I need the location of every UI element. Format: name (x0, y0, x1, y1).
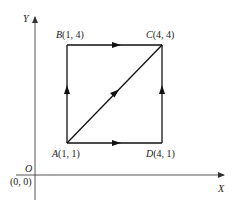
label-D: D(4, 1) (145, 148, 175, 160)
label-A: A(1, 1) (51, 148, 80, 160)
origin-label: O (25, 163, 32, 174)
label-B: B(1, 4) (56, 29, 84, 41)
arrow-up-icon (159, 85, 165, 94)
arrow-up-icon (64, 85, 70, 94)
y-axis-label: Y (23, 13, 30, 24)
axis-labels: Y X O (0, 0) (10, 13, 225, 194)
label-C: C(4, 4) (146, 29, 174, 41)
origin-coords: (0, 0) (10, 176, 32, 188)
diagram-canvas: B(1, 4) C(4, 4) A(1, 1) D(4, 1) Y X O (0… (0, 0, 237, 211)
arrow-right-icon (112, 140, 121, 146)
arrow-diagonal-icon (110, 90, 119, 98)
arrow-right-icon (112, 42, 121, 48)
x-axis-label: X (217, 183, 225, 194)
